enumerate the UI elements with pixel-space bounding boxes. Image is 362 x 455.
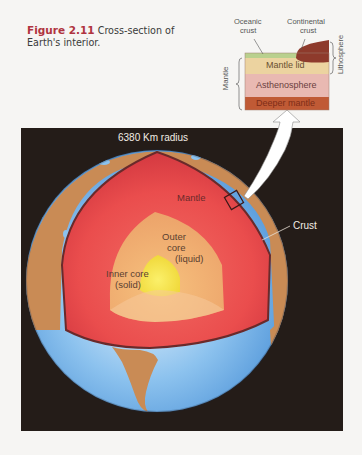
crust-label: Crust	[293, 220, 317, 231]
outer-core-label-line1: Outer	[162, 231, 186, 242]
lithosphere-label: Lithosphere	[336, 35, 345, 74]
asthenosphere-label: Asthenosphere	[256, 80, 317, 90]
outer-core-label-line2: core	[167, 242, 185, 253]
mantle-label: Mantle	[177, 192, 206, 203]
inset-mantle-label: Mantle	[221, 66, 230, 90]
deeper-mantle-label: Deeper mantle	[256, 98, 315, 108]
oceanic-crust-label-line2: crust	[240, 26, 256, 35]
mantle-bracket	[236, 58, 242, 110]
mantle-lid-label: Mantle lid	[266, 60, 305, 70]
oceanic-crust-label-line1: Oceanic	[234, 17, 262, 26]
inner-core-label-line2: (solid)	[115, 279, 141, 290]
continental-crust-label-line2: crust	[300, 26, 316, 35]
outer-core-label-line3: (liquid)	[175, 253, 204, 264]
figure: Figure 2.11 Cross-section of Earth's int…	[0, 0, 362, 455]
lithosphere-bracket	[330, 42, 336, 74]
radius-label: 6380 Km radius	[118, 132, 188, 143]
inner-core-label-line1: Inner core	[106, 268, 149, 279]
zoom-arrow	[244, 110, 300, 199]
continental-crust-label-line1: Continental	[287, 17, 325, 26]
